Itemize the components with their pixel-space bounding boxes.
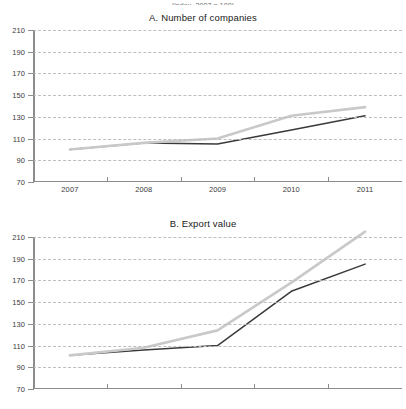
y-tick-mark [28,139,34,140]
gridline [33,324,402,325]
gridline [33,139,402,140]
y-tick-mark [28,367,34,368]
y-tick-label: 130 [0,319,25,328]
x-tick-mark [254,177,255,182]
y-tick-label: 130 [0,112,25,121]
x-tick-mark [181,177,182,182]
panel-a-title: A. Number of companies [0,5,406,24]
gridline [33,346,402,347]
y-tick-label: 110 [0,341,25,350]
panel-a-x-tick-labels: 20072008200920102011 [0,183,406,197]
y-tick-label: 110 [0,134,25,143]
gridline [33,237,402,238]
y-tick-mark [28,95,34,96]
x-tick-mark [107,177,108,182]
y-tick-mark [28,52,34,53]
y-tick-label: 150 [0,298,25,307]
y-tick-label: 90 [0,363,25,372]
panel-b-series-layer [0,237,406,389]
y-tick-label: 170 [0,276,25,285]
x-tick-mark [328,384,329,389]
gridline [33,73,402,74]
y-tick-mark [28,302,34,303]
gridline [33,259,402,260]
y-tick-mark [28,117,34,118]
y-tick-mark [28,73,34,74]
x-tick-mark [328,177,329,182]
y-tick-label: 70 [0,385,25,394]
y-tick-mark [28,160,34,161]
gridline [33,280,402,281]
y-tick-mark [28,324,34,325]
y-tick-mark [28,30,34,31]
panel-b-title: B. Export value [0,212,406,230]
y-tick-label: 190 [0,47,25,56]
y-tick-label: 90 [0,156,25,165]
series-line-dark-series [70,264,365,355]
y-tick-label: 190 [0,254,25,263]
x-tick-label: 2010 [283,185,300,194]
panel-export-value: B. Export value 2101901701501301109070 [0,212,406,409]
x-tick-mark [254,384,255,389]
y-tick-label: 170 [0,69,25,78]
y-tick-label: 210 [0,26,25,35]
gridline [33,302,402,303]
x-tick-label: 2008 [135,185,152,194]
gridline [33,117,402,118]
y-tick-label: 210 [0,233,25,242]
x-tick-mark [107,384,108,389]
x-tick-label: 2011 [357,185,374,194]
series-line-light-series [70,107,365,149]
gridline [33,30,402,31]
gridline [33,95,402,96]
series-line-light-series [70,232,365,356]
gridline [33,367,402,368]
x-tick-label: 2009 [209,185,226,194]
chart-page: (index, 2007 = 100) A. Number of compani… [0,0,406,409]
y-tick-label: 150 [0,91,25,100]
x-tick-mark [181,384,182,389]
panel-a-plot-area: 2101901701501301109070 [0,30,406,182]
x-tick-label: 2007 [61,185,78,194]
y-tick-mark [28,346,34,347]
y-tick-mark [28,237,34,238]
y-tick-mark [28,259,34,260]
y-tick-mark [28,389,34,390]
gridline [33,52,402,53]
panel-number-of-companies: A. Number of companies 21019017015013011… [0,5,406,210]
panel-b-plot-area: 2101901701501301109070 [0,237,406,389]
y-tick-mark [28,280,34,281]
panel-a-series-layer [0,30,406,182]
gridline [33,160,402,161]
